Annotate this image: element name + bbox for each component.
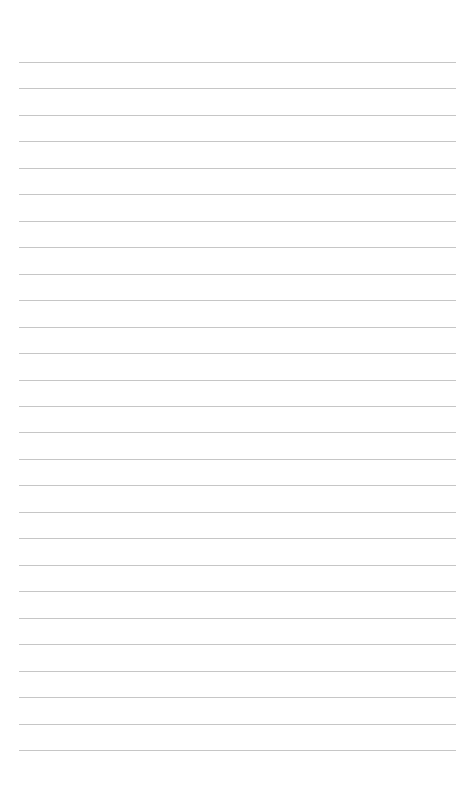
ruled-line xyxy=(19,459,456,460)
ruled-line xyxy=(19,618,456,619)
ruled-line xyxy=(19,644,456,645)
ruled-line xyxy=(19,485,456,486)
ruled-line xyxy=(19,221,456,222)
lined-paper-page xyxy=(0,0,470,791)
ruled-line xyxy=(19,724,456,725)
ruled-line xyxy=(19,141,456,142)
ruled-line xyxy=(19,432,456,433)
ruled-line xyxy=(19,750,456,751)
ruled-line xyxy=(19,512,456,513)
ruled-line xyxy=(19,115,456,116)
ruled-line xyxy=(19,591,456,592)
ruled-line xyxy=(19,380,456,381)
ruled-line xyxy=(19,194,456,195)
ruled-line xyxy=(19,538,456,539)
ruled-line xyxy=(19,62,456,63)
ruled-line xyxy=(19,353,456,354)
ruled-line xyxy=(19,274,456,275)
ruled-line xyxy=(19,406,456,407)
ruled-line xyxy=(19,300,456,301)
ruled-line xyxy=(19,168,456,169)
ruled-line xyxy=(19,671,456,672)
ruled-line xyxy=(19,247,456,248)
ruled-line xyxy=(19,697,456,698)
ruled-line xyxy=(19,327,456,328)
ruled-line xyxy=(19,88,456,89)
ruled-line xyxy=(19,565,456,566)
